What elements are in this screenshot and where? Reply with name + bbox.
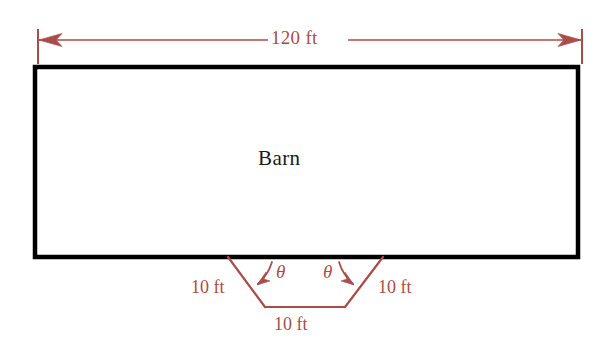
pen-left-side-label: 10 ft [191,278,225,296]
pen-trapezoid [228,257,383,307]
barn-structure-label: Barn [258,148,300,169]
barn-pen-diagram: 120 ft Barn 10 ft 10 ft 10 ft θ θ [0,0,603,347]
pen-right-side-label: 10 ft [378,278,412,296]
theta-right-arc [339,262,354,285]
pen-bottom-side-label: 10 ft [274,315,308,333]
theta-left-label: θ [276,262,285,281]
diagram-canvas [0,0,603,347]
barn-width-label: 120 ft [271,28,318,47]
theta-right-arrowhead [341,272,354,285]
theta-left-arrowhead [257,272,270,285]
theta-right-label: θ [323,262,332,281]
theta-left-arc [257,262,272,285]
barn-rectangle [35,67,578,257]
